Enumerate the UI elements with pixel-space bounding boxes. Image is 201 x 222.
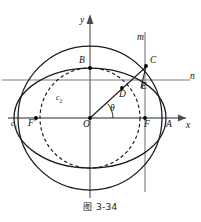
point-E-label: E xyxy=(141,82,147,92)
point-F-label: F xyxy=(144,120,150,130)
curve-c2-label: c2 xyxy=(56,94,62,104)
point-C xyxy=(144,64,148,68)
point-O-label: O xyxy=(83,120,90,130)
line-n-label: n xyxy=(190,72,195,82)
geometry-canvas xyxy=(0,0,201,222)
point-A-label: A xyxy=(166,120,172,130)
figure-3-34: x y m n c1 c2 O A B C D E F F' θ 图 3-34 xyxy=(0,0,201,222)
point-B-label: B xyxy=(79,56,85,66)
point-B xyxy=(88,66,92,70)
x-axis-label: x xyxy=(186,121,190,131)
curve-c1-label: c1 xyxy=(11,120,17,130)
point-C-label: C xyxy=(150,56,156,66)
y-axis-label: y xyxy=(80,16,84,26)
point-D-label: D xyxy=(119,90,126,100)
figure-caption: 图 3-34 xyxy=(0,200,201,213)
angle-theta-label: θ xyxy=(110,104,115,114)
x-axis-arrow xyxy=(178,115,186,122)
y-axis-arrow xyxy=(87,14,94,24)
line-m-label: m xyxy=(137,33,144,43)
point-F-prime-label: F' xyxy=(28,119,36,129)
